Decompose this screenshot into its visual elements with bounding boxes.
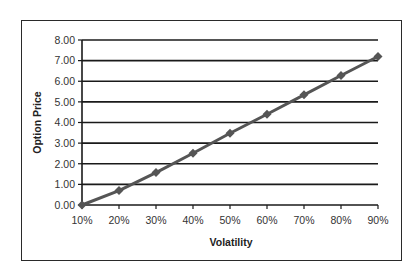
x-tick-label: 30% (145, 214, 166, 226)
y-tick-label: 6.00 (55, 75, 76, 87)
y-tick-label: 5.00 (55, 96, 76, 108)
y-axis-title: Option Price (31, 91, 43, 154)
y-tick-label: 8.00 (55, 34, 76, 46)
x-tick-label: 10% (71, 214, 92, 226)
x-tick-label: 40% (182, 214, 203, 226)
series-group (78, 52, 383, 210)
x-tick-label: 70% (293, 214, 314, 226)
y-tick-label: 3.00 (55, 137, 76, 149)
x-tick-label: 90% (367, 214, 388, 226)
y-axis-ticks: 0.001.002.003.004.005.006.007.008.00 (55, 34, 82, 211)
x-axis-title: Volatility (210, 236, 253, 248)
y-tick-label: 2.00 (55, 158, 76, 170)
x-axis-ticks: 10%20%30%40%50%60%70%80%90% (71, 205, 388, 226)
y-tick-label: 0.00 (55, 199, 76, 211)
y-tick-label: 4.00 (55, 116, 76, 128)
x-tick-label: 80% (330, 214, 351, 226)
line-chart: 0.001.002.003.004.005.006.007.008.00 10%… (0, 0, 419, 280)
y-tick-label: 1.00 (55, 178, 76, 190)
y-tick-label: 7.00 (55, 54, 76, 66)
gridlines (82, 40, 378, 184)
x-tick-label: 50% (219, 214, 240, 226)
x-tick-label: 60% (256, 214, 277, 226)
data-point-diamond (78, 201, 87, 210)
x-tick-label: 20% (108, 214, 129, 226)
